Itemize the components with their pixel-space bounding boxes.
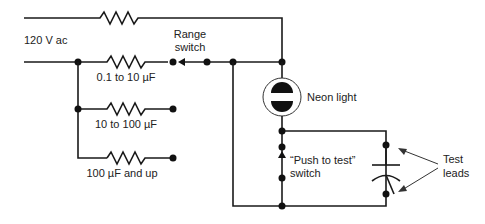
test-leads-label-2: leads — [443, 167, 470, 179]
neon-label: Neon light — [307, 91, 357, 103]
r1-label: 0.1 to 10 µF — [97, 71, 156, 83]
test-leads-label-1: Test — [443, 153, 463, 165]
range-switch-label-1: Range — [174, 28, 206, 40]
push-switch-label-2: switch — [290, 167, 321, 179]
range-switch-arrow-icon — [178, 58, 185, 66]
push-switch-label-1: “Push to test” — [290, 154, 356, 166]
test-leads-pointer — [398, 148, 438, 192]
push-switch-arrow-icon — [278, 151, 286, 158]
r2-label: 10 to 100 µF — [95, 118, 157, 130]
r3-label: 100 µF and up — [86, 167, 157, 179]
range-contact-1 — [170, 59, 177, 66]
source-label: 120 V ac — [24, 34, 68, 46]
junction-dot — [75, 106, 82, 113]
range-contact-3 — [170, 155, 177, 162]
range-switch-pivot — [204, 59, 211, 66]
circuit-diagram: 120 V ac Range switch 0.1 to 10 µF 10 to… — [0, 0, 485, 224]
range-line — [24, 56, 286, 68]
range-contact-2 — [170, 106, 177, 113]
return-wire — [233, 62, 386, 206]
range-switch-label-2: switch — [175, 41, 206, 53]
